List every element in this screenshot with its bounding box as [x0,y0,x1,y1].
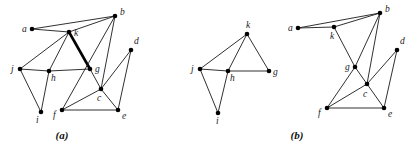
panel-caption-a: (a) [56,129,69,142]
node-label-j: j [189,64,194,74]
node-i [39,110,44,115]
node-label-g: g [345,62,350,72]
node-label-d: d [134,36,139,46]
node-g [88,67,93,72]
node-label-k: k [74,28,79,38]
edge-j-i [20,69,41,112]
edge-k-g [247,34,269,71]
edge-k-g [334,27,355,67]
node-label-j: j [9,64,14,74]
node-label-d: d [400,36,405,46]
edge-f-c [327,84,367,108]
node-label-f: f [318,108,322,118]
edge-h-i [218,71,228,113]
node-f [325,106,330,111]
node-k [332,25,337,30]
edge-b-g [355,13,380,67]
node-label-h: h [51,73,56,83]
node-g [353,65,358,70]
node-label-g: g [95,64,100,74]
edge-g-c [355,67,367,84]
edge-b-c [367,13,380,84]
edge-c-e [367,84,384,108]
node-label-c: c [363,89,368,99]
edge-a-k [32,29,69,32]
node-label-i: i [36,115,39,125]
panel-caption-b-right: (b) [291,129,304,142]
node-e [116,108,121,113]
edge-k-j [20,32,69,69]
captions-layer: (a)(b) [56,129,304,142]
edge-k-g [69,32,90,69]
node-c [99,87,104,92]
edge-d-e [384,50,397,108]
node-label-a: a [22,24,27,34]
edge-c-e [101,89,118,110]
node-d [395,48,400,53]
edge-k-h [228,34,247,71]
node-c [365,82,370,87]
node-label-b: b [385,4,390,14]
edge-g-f [327,67,355,108]
node-k [245,32,250,37]
node-a [30,27,35,32]
node-j [18,67,23,72]
node-label-e: e [388,109,392,119]
node-k [67,30,72,35]
node-label-k: k [330,31,335,41]
node-a [296,26,301,31]
node-label-k: k [246,20,251,30]
node-label-c: c [97,93,102,103]
node-label-i: i [216,116,219,126]
node-j [198,67,203,72]
node-b [378,11,383,16]
node-label-f: f [53,110,57,120]
node-b [113,14,118,19]
node-label-g: g [273,67,278,77]
edge-j-i [200,69,218,113]
edge-h-i [41,71,49,112]
node-i [216,111,221,116]
edge-j-h [200,69,228,71]
edge-b-c [101,16,115,89]
edge-j-h [20,69,49,71]
node-label-h: h [230,73,235,83]
edge-k-j [200,34,247,69]
node-f [60,108,65,113]
edge-c-d [367,50,397,84]
node-label-a: a [288,23,293,33]
node-label-b: b [120,7,125,17]
node-label-e: e [122,111,126,121]
graph-diagram: abkdjhgcifekjhgiabkdgcfe (a)(b) [0,0,418,152]
edge-k-h [49,32,69,71]
node-g [267,69,272,74]
node-e [382,106,387,111]
node-d [129,48,134,53]
